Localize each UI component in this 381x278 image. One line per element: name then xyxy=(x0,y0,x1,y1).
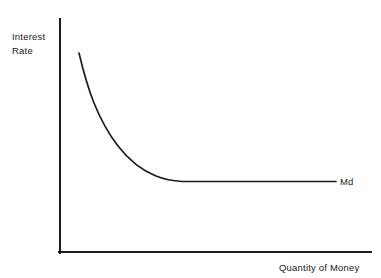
chart-canvas: Interest Rate Quantity of Money Md xyxy=(0,0,381,278)
y-axis-label-line1: Interest xyxy=(12,31,45,42)
money-demand-chart: Interest Rate Quantity of Money Md xyxy=(0,0,381,278)
y-axis-label-line2: Rate xyxy=(12,45,33,56)
curve-label-md: Md xyxy=(340,176,354,187)
x-axis-label: Quantity of Money xyxy=(279,262,360,273)
chart-background xyxy=(0,0,381,278)
